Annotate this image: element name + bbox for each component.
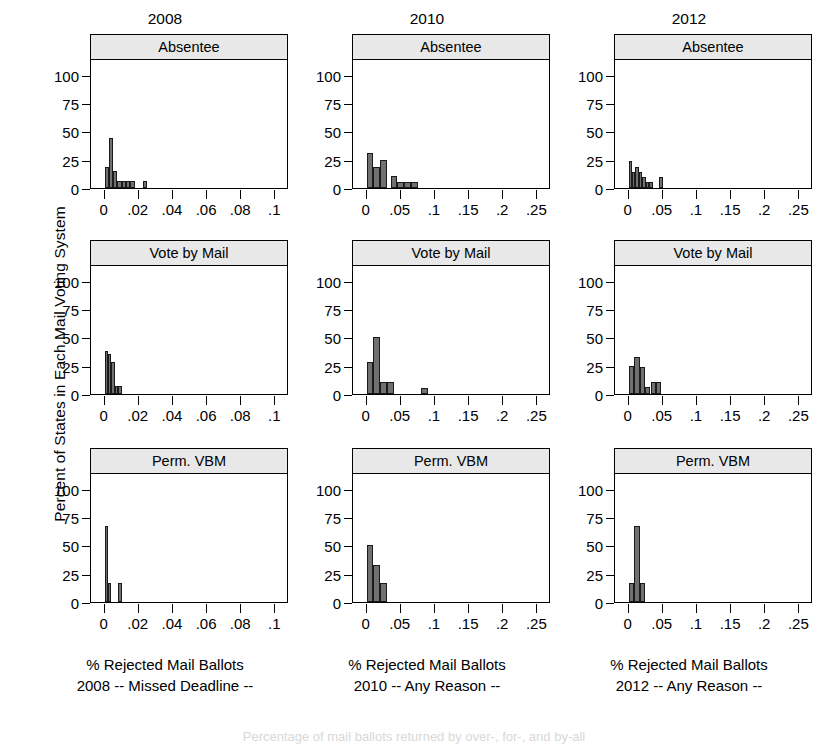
x-tick-label: .2 (758, 616, 771, 631)
caption-line-1: % Rejected Mail Ballots (34, 654, 296, 675)
y-tick (82, 338, 90, 339)
panel-2012-perm-vbm: Perm. VBM02550751000.05.1.15.2.25 (614, 448, 812, 640)
y-tick (606, 395, 614, 396)
x-tick-label: .04 (161, 202, 182, 217)
y-tick (82, 189, 90, 190)
y-tick-label: 75 (586, 97, 603, 112)
y-tick-label: 0 (333, 182, 341, 197)
x-tick-label: .2 (758, 202, 771, 217)
x-tick-label: .06 (196, 202, 217, 217)
y-tick-label: 0 (71, 596, 79, 611)
x-tick-label: .06 (196, 616, 217, 631)
column-title-2010: 2010 (296, 10, 558, 28)
x-tick-label: .02 (127, 408, 148, 423)
y-tick (606, 310, 614, 311)
strip-label: Perm. VBM (614, 448, 812, 474)
x-axis: 0.05.1.15.2.25 (614, 190, 812, 236)
y-tick (82, 395, 90, 396)
x-tick (434, 604, 435, 613)
y-tick (82, 132, 90, 133)
x-axis-caption: % Rejected Mail Ballots2012 -- Any Reaso… (558, 654, 820, 697)
histogram-bar (380, 160, 387, 188)
y-tick (82, 310, 90, 311)
x-tick (172, 396, 173, 405)
histogram-bar (380, 382, 387, 394)
x-axis-caption: % Rejected Mail Ballots2008 -- Missed De… (34, 654, 296, 697)
histogram-bar (118, 386, 121, 394)
histogram-bar (411, 182, 418, 188)
y-tick (344, 367, 352, 368)
histogram-bar (118, 583, 121, 602)
panel-2008-perm-vbm: Perm. VBM02550751000.02.04.06.08.1 (90, 448, 288, 640)
y-tick (606, 282, 614, 283)
y-tick-label: 75 (586, 511, 603, 526)
x-tick-label: .1 (268, 408, 281, 423)
strip-label: Absentee (90, 34, 288, 60)
histogram-bar (373, 167, 380, 188)
y-tick-label: 50 (62, 125, 79, 140)
x-tick (434, 396, 435, 405)
y-tick-label: 75 (62, 303, 79, 318)
panel-grid: 2008Absentee02550751000.02.04.06.08.1Vot… (28, 8, 828, 686)
y-tick-label: 25 (324, 359, 341, 374)
y-tick (606, 575, 614, 576)
y-tick (606, 546, 614, 547)
strip-label: Vote by Mail (90, 240, 288, 266)
x-tick (696, 190, 697, 199)
y-tick-label: 0 (71, 388, 79, 403)
y-tick (344, 282, 352, 283)
y-tick (82, 367, 90, 368)
y-axis: 0255075100 (562, 59, 614, 189)
x-tick-label: .15 (458, 616, 479, 631)
y-tick-label: 25 (324, 567, 341, 582)
x-tick (764, 190, 765, 199)
x-axis: 0.05.1.15.2.25 (614, 396, 812, 442)
x-tick-label: .1 (268, 616, 281, 631)
x-tick-label: 0 (361, 408, 369, 423)
x-tick (696, 604, 697, 613)
y-tick-label: 50 (324, 331, 341, 346)
panel-2012-absentee: Absentee02550751000.05.1.15.2.25 (614, 34, 812, 226)
x-tick-label: 0 (361, 616, 369, 631)
x-tick-label: .25 (788, 202, 809, 217)
x-axis: 0.02.04.06.08.1 (90, 396, 288, 442)
scan-bleed-text: Percentage of mail ballots returned by o… (0, 729, 828, 744)
x-tick (274, 396, 275, 405)
histogram-bar (367, 153, 374, 188)
plot-area (614, 473, 812, 603)
x-tick (536, 604, 537, 613)
y-axis: 0255075100 (300, 59, 352, 189)
x-tick-label: .05 (651, 202, 672, 217)
y-tick (344, 518, 352, 519)
histogram-bar (640, 583, 645, 602)
x-tick-label: .15 (458, 202, 479, 217)
x-tick-label: 0 (99, 202, 107, 217)
x-tick (502, 190, 503, 199)
x-tick (366, 190, 367, 199)
y-tick-label: 25 (586, 359, 603, 374)
histogram-bar (404, 182, 411, 188)
x-tick-label: .05 (651, 408, 672, 423)
y-tick-label: 0 (71, 182, 79, 197)
y-tick (82, 490, 90, 491)
y-tick (606, 132, 614, 133)
y-tick-label: 50 (586, 331, 603, 346)
panel-column-2010: 2010Absentee02550751000.05.1.15.2.25Vote… (296, 8, 558, 686)
panel-2010-perm-vbm: Perm. VBM02550751000.05.1.15.2.25 (352, 448, 550, 640)
x-tick (730, 604, 731, 613)
x-tick (172, 190, 173, 199)
x-tick-label: .02 (127, 202, 148, 217)
x-tick (502, 396, 503, 405)
x-tick-label: .15 (720, 408, 741, 423)
y-tick-label: 25 (324, 153, 341, 168)
plot-area (90, 473, 288, 603)
caption-line-1: % Rejected Mail Ballots (296, 654, 558, 675)
x-tick (628, 190, 629, 199)
y-tick (344, 546, 352, 547)
y-tick (344, 575, 352, 576)
y-tick (82, 161, 90, 162)
panel-2010-vote-by-mail: Vote by Mail02550751000.05.1.15.2.25 (352, 240, 550, 432)
x-tick (366, 604, 367, 613)
x-tick (240, 396, 241, 405)
x-tick-label: .1 (428, 408, 441, 423)
